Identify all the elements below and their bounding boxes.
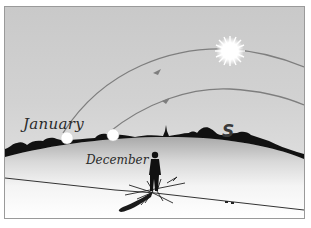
sun-icon [215,36,245,66]
january-sun-path [63,49,304,133]
sun-path-scene [5,7,304,218]
illustration-frame: January December S [4,6,305,219]
december-sunset-point [107,129,119,141]
south-direction-label: S [222,121,234,141]
arrow-icon [162,98,170,104]
january-label: January [23,115,84,133]
january-sunset-point [61,132,73,144]
december-sun-path [108,89,304,133]
arrow-icon [153,69,161,75]
december-label: December [86,153,148,167]
